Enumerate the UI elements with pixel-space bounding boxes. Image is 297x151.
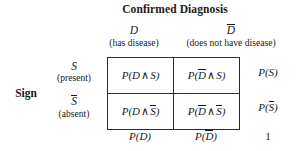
column-margin-p-d-fn: P <box>129 130 136 142</box>
row-header-sbar-description: (absent) <box>44 108 104 119</box>
table-row: P(D∧S) P(D∧S) <box>108 58 240 94</box>
cell-dbar-and-sbar-operator: ∧ <box>206 105 216 117</box>
row-margin-p-s-fn: P <box>258 66 265 78</box>
row-header-s-symbol: S <box>44 60 104 72</box>
column-group-title: Confirmed Diagnosis <box>70 3 280 15</box>
cell-dbar-and-s-operator: ∧ <box>206 69 216 81</box>
column-header-d-description: (has disease) <box>103 37 165 48</box>
cell-d-and-sbar-paren-close: ) <box>156 105 160 117</box>
cell-dbar-and-sbar-arg-a: D <box>198 105 206 117</box>
column-header-dbar-description: (does not have disease) <box>167 37 295 48</box>
row-header-sbar-symbol: S <box>44 95 104 108</box>
cell-dbar-and-s-paren-close: ) <box>222 69 226 81</box>
row-margin-p-sbar-fn: P <box>258 101 265 113</box>
column-header-dbar-symbol-text: D <box>227 24 235 37</box>
column-header-d: D (has disease) <box>103 24 165 48</box>
column-margin-p-dbar-paren-close: ) <box>213 130 217 142</box>
column-header-dbar-symbol: D <box>167 24 295 37</box>
cell-d-and-sbar-arg-a: D <box>132 105 140 117</box>
row-margin-p-s-paren-close: ) <box>274 66 278 78</box>
row-margin-p-s: P(S) <box>243 66 293 78</box>
cell-dbar-and-s: P(D∧S) <box>174 58 240 94</box>
row-header-sbar-symbol-text: S <box>71 95 77 108</box>
probability-table: P(D∧S) P(D∧S) P(D∧S) P(D∧S) <box>107 57 240 130</box>
cell-d-and-s-operator: ∧ <box>140 69 150 81</box>
column-header-d-symbol-text: D <box>130 24 138 36</box>
row-header-s: S (present) <box>44 60 104 83</box>
column-margin-p-dbar-fn: P <box>195 130 202 142</box>
cell-d-and-sbar-operator: ∧ <box>140 105 150 117</box>
row-margin-p-sbar: P(S) <box>243 101 293 113</box>
row-group-title: Sign <box>4 87 48 99</box>
column-margin-p-d: P(D) <box>107 130 173 142</box>
cell-dbar-and-sbar-paren-close: ) <box>222 105 226 117</box>
cell-d-and-s-paren-close: ) <box>156 69 160 81</box>
row-header-s-description: (present) <box>44 72 104 83</box>
row-header-sbar: S (absent) <box>44 95 104 119</box>
probability-table-diagram: Confirmed Diagnosis D (has disease) D (d… <box>0 0 297 151</box>
grand-total: 1 <box>243 130 293 142</box>
column-header-d-symbol: D <box>103 24 165 37</box>
cell-dbar-and-sbar: P(D∧S) <box>174 94 240 130</box>
table-row: P(D∧S) P(D∧S) <box>108 94 240 130</box>
column-header-dbar: D (does not have disease) <box>167 24 295 48</box>
cell-d-and-s-arg-a: D <box>132 69 140 81</box>
cell-d-and-sbar: P(D∧S) <box>108 94 174 130</box>
cell-dbar-and-s-arg-a: D <box>198 69 206 81</box>
row-margin-p-sbar-paren-close: ) <box>274 101 278 113</box>
column-margin-p-d-paren-close: ) <box>147 130 151 142</box>
cell-d-and-s: P(D∧S) <box>108 58 174 94</box>
row-header-s-symbol-text: S <box>71 60 77 72</box>
column-margin-p-dbar: P(D) <box>173 130 239 142</box>
